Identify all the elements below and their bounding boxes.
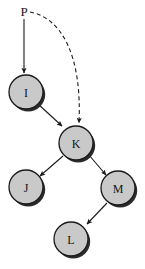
node-i[interactable]: I (9, 75, 45, 112)
node-label-k: K (72, 137, 81, 151)
node-label-j: J (24, 181, 29, 195)
edge-k-to-j (40, 156, 63, 176)
edge-i-to-k (38, 104, 62, 126)
node-m[interactable]: M (101, 171, 137, 208)
node-l[interactable]: L (54, 222, 90, 259)
nodes-layer: IKJML (9, 75, 137, 259)
node-label-l: L (67, 233, 74, 247)
node-label-m: M (113, 182, 124, 196)
graph-canvas: IKJML P (0, 0, 145, 269)
graph-diagram: IKJML P (0, 0, 145, 269)
free-label-p: P (20, 4, 27, 19)
node-k[interactable]: K (59, 126, 95, 163)
free-labels-layer: P (20, 4, 27, 19)
edge-k-to-m (89, 155, 106, 175)
edge-m-to-l (87, 203, 107, 224)
node-label-i: I (24, 86, 28, 100)
